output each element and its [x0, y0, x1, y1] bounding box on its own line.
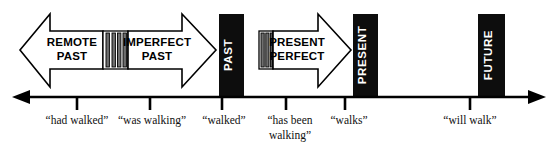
- arrow-imperfect-past: IMPERFECT PAST: [123, 14, 216, 87]
- axis-label-walks: “walks”: [330, 114, 367, 126]
- future-block-label: FUTURE: [482, 30, 494, 80]
- remote-past-label-line1: REMOTE: [47, 36, 98, 48]
- divider-past-bar: [106, 33, 109, 67]
- present-perfect-label-line1: PRESENT: [269, 36, 325, 48]
- remote-past-label-line2: PAST: [57, 50, 88, 62]
- past-block-label: PAST: [222, 39, 234, 71]
- block-present: PRESENT: [353, 14, 378, 97]
- axis-label-has-been-walking-line1: “has been: [267, 114, 312, 126]
- divider-past-bar: [118, 33, 121, 67]
- divider-past-bar: [112, 33, 115, 67]
- axis-label-has-been-walking-line2: walking”: [269, 129, 311, 142]
- time-axis: [12, 90, 546, 110]
- axis-label-walked: “walked”: [202, 114, 245, 126]
- axis-label-had-walked: “had walked”: [46, 114, 109, 126]
- timeline-diagram: REMOTE PAST IMPERFECT PAST PAST: [0, 0, 557, 146]
- arrow-present-perfect: PRESENT PERFECT: [269, 14, 351, 87]
- axis-label-was-walking: “was walking”: [118, 114, 186, 127]
- imperfect-past-label-line1: IMPERFECT: [123, 36, 191, 48]
- diagram-canvas: REMOTE PAST IMPERFECT PAST PAST: [0, 0, 557, 146]
- axis-label-will-walk: “will walk”: [443, 114, 496, 126]
- imperfect-past-label-line2: PAST: [142, 50, 173, 62]
- block-past: PAST: [219, 14, 244, 97]
- present-perfect-label-line2: PERFECT: [269, 50, 324, 62]
- block-future: FUTURE: [478, 14, 505, 97]
- axis-labels: “had walked” “was walking” “walked” “has…: [46, 114, 497, 142]
- axis-right-arrowhead: [528, 90, 546, 104]
- present-block-label: PRESENT: [356, 26, 368, 85]
- divider-pp-bar: [261, 33, 264, 67]
- arrow-remote-past: REMOTE PAST: [20, 14, 103, 87]
- axis-left-arrowhead: [12, 90, 30, 104]
